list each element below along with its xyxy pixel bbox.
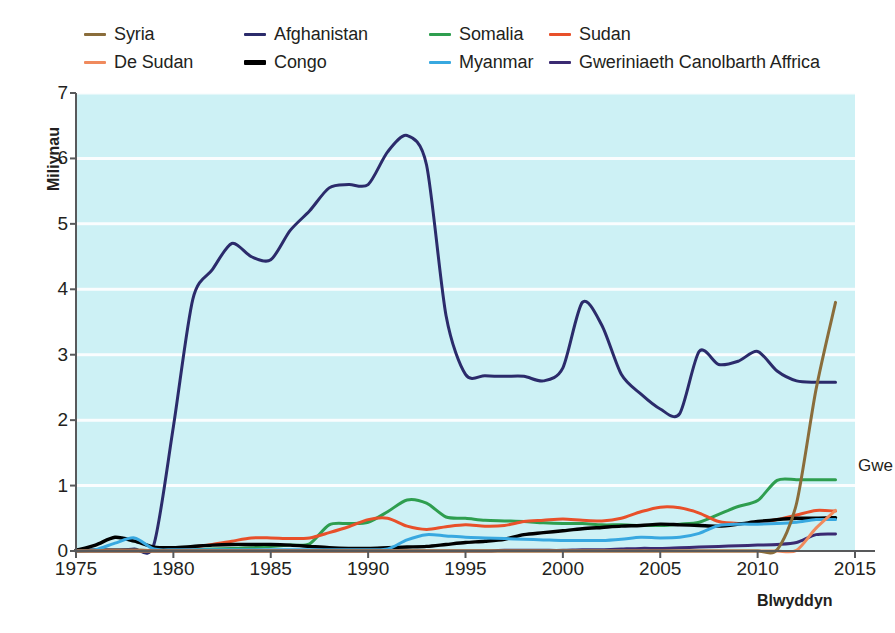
plot-background	[76, 93, 855, 551]
right-margin-mask	[855, 0, 891, 93]
